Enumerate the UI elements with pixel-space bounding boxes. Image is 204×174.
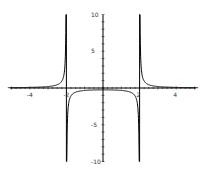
- function-plot: -4-224105-5-10: [0, 0, 204, 174]
- x-tick-label: 4: [173, 91, 177, 98]
- x-tick-label: 2: [137, 91, 141, 98]
- y-tick-label: 5: [91, 47, 95, 54]
- y-tick-label: -10: [91, 158, 101, 165]
- y-axis: [102, 15, 105, 163]
- y-tick-label: 10: [91, 11, 99, 18]
- x-tick-label: -4: [27, 91, 33, 98]
- y-tick-label: -5: [91, 121, 97, 128]
- x-tick-label: -2: [63, 91, 69, 98]
